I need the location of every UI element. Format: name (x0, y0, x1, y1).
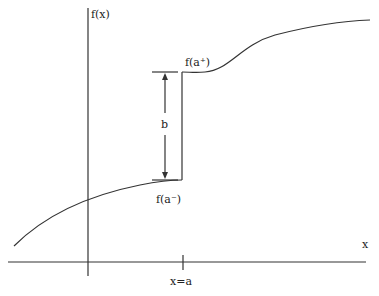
arrow-up-icon (162, 73, 168, 80)
arrow-down-icon (162, 172, 168, 179)
y-axis-label: f(x) (91, 8, 110, 21)
curve-right-branch (182, 20, 370, 72)
curve-left-branch (14, 180, 182, 246)
tick-label: x=a (170, 275, 192, 288)
x-axis-label: x (362, 238, 369, 251)
right-limit-label: f(a⁺) (185, 56, 210, 69)
left-limit-label: f(a⁻) (156, 193, 181, 206)
jump-discontinuity-diagram: f(x) x f(a⁺) f(a⁻) b x=a (0, 0, 379, 296)
jump-label: b (161, 118, 168, 131)
